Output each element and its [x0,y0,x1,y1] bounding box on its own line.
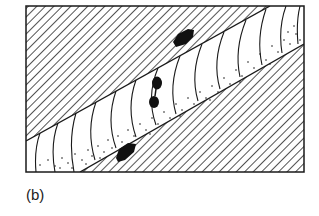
figure-caption: (b) [26,186,44,203]
shear-zone-diagram [0,0,319,216]
band-black-blob-1 [152,77,162,90]
band-black-blob-2 [149,96,159,108]
